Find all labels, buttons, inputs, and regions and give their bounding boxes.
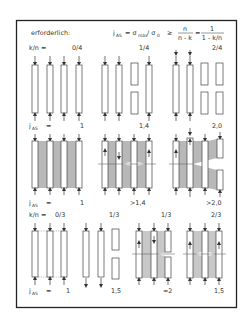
jas-value-shaded-2: >1,4 <box>130 199 146 207</box>
kn-label-1: k/n = <box>29 44 46 52</box>
bar-group-0-3 <box>32 223 67 285</box>
ratio-1-3-a: 1/3 <box>109 211 119 219</box>
bar-group-2-3 <box>183 223 226 285</box>
formula-ge: ≥ <box>167 29 172 37</box>
jas-value-1-4: 1,4 <box>139 122 149 130</box>
ratio-1-3-b: 1/3 <box>161 211 171 219</box>
ratio-2-3: 2/3 <box>211 211 221 219</box>
jas-value-shaded-3: >2,0 <box>206 199 222 207</box>
jas-sub-2: AS <box>32 203 38 208</box>
formula-div: / σ <box>147 29 155 37</box>
jas-label-1: j <box>28 122 31 130</box>
jas-value-2-4: 2,0 <box>212 122 222 130</box>
formula-j-sub: AS <box>116 33 122 38</box>
jas-sub-3: AS <box>32 291 38 296</box>
bar-group-0-4 <box>32 56 82 121</box>
jas-sub-1: AS <box>32 126 38 131</box>
bar-group-1-3-b <box>132 223 175 285</box>
jas-value-1-3-a: 1,5 <box>111 287 121 295</box>
header-title: erforderlich: <box>31 29 70 37</box>
formula-zero-sub: 0 <box>157 33 160 38</box>
jas-value-1-3-b: ≈2 <box>163 287 172 295</box>
bar-group-1-4 <box>102 56 152 121</box>
formula: j AS = σ max / σ 0 ≥ n n - k = 1 1 - k/n <box>112 25 224 42</box>
jas-value-shaded-1: 1 <box>80 199 84 207</box>
ratio-2-4: 2/4 <box>212 44 222 52</box>
bar-group-1-3-a <box>83 223 119 286</box>
jas-label-3: j <box>28 287 31 295</box>
jas-value-2-3: 1,5 <box>214 287 224 295</box>
diagram-canvas: erforderlich: j AS = σ max / σ 0 ≥ n n -… <box>0 0 247 318</box>
ratio-0-3: 0/3 <box>55 211 65 219</box>
jas-value-0-3: 1 <box>66 287 70 295</box>
jas-value-0-4: 1 <box>80 122 84 130</box>
jas-eq-1: = <box>46 122 51 130</box>
bar-group-2-4 <box>173 50 223 121</box>
ratio-0-4: 0/4 <box>72 44 82 52</box>
shaded-group-2 <box>98 134 156 195</box>
shaded-group-1 <box>32 134 82 195</box>
frac2-num: 1 <box>210 25 214 33</box>
jas-eq-2: = <box>46 199 51 207</box>
jas-eq-3: = <box>46 287 51 295</box>
ratio-1-4: 1/4 <box>139 44 149 52</box>
frac1-den: n - k <box>178 34 192 42</box>
formula-sigma: = σ <box>125 29 136 37</box>
frac1-num: n <box>183 25 187 33</box>
frac2-den: 1 - k/n <box>202 34 222 42</box>
kn-label-3: k/n = <box>29 211 46 219</box>
formula-j: j <box>112 29 115 37</box>
formula-eq2: = <box>195 29 200 37</box>
shaded-group-3 <box>169 128 223 197</box>
jas-label-2: j <box>28 199 31 207</box>
